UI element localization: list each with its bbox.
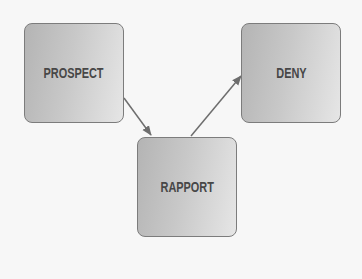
node-label: PROSPECT [44, 65, 104, 81]
edge-rapport-to-deny [191, 76, 241, 136]
node-deny[interactable]: DENY [241, 23, 341, 123]
edge-prospect-to-rapport [124, 98, 151, 135]
node-label: RAPPORT [160, 179, 213, 195]
node-label: DENY [276, 65, 306, 81]
node-rapport[interactable]: RAPPORT [137, 137, 237, 237]
node-prospect[interactable]: PROSPECT [24, 23, 124, 123]
